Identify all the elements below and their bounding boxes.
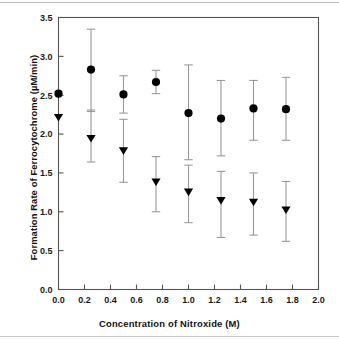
page-top-rule (0, 2, 339, 3)
svg-text:3.0: 3.0 (40, 52, 53, 62)
y-axis-tick-labels: 0.00.51.01.52.02.53.03.5 (40, 13, 53, 295)
svg-text:1.4: 1.4 (234, 295, 247, 305)
svg-text:1.0: 1.0 (40, 207, 53, 217)
y-axis-title: Formation Rate of Ferrocytochrome (µM/mi… (28, 33, 39, 283)
svg-text:3.5: 3.5 (40, 13, 53, 23)
error-bars (87, 29, 290, 241)
x-axis-title: Concentration of Nitroxide (M) (0, 318, 339, 329)
svg-text:2.0: 2.0 (40, 129, 53, 139)
svg-text:1.2: 1.2 (208, 295, 221, 305)
svg-text:0.0: 0.0 (40, 285, 53, 295)
figure-canvas: 0.00.20.40.60.81.01.21.41.61.82.0 0.00.5… (0, 0, 339, 340)
y-axis-ticks (59, 18, 64, 290)
x-axis-ticks (59, 285, 319, 290)
x-axis-tick-labels: 0.00.20.40.60.81.01.21.41.61.82.0 (52, 295, 325, 305)
svg-text:0.8: 0.8 (156, 295, 169, 305)
svg-text:2.0: 2.0 (312, 295, 325, 305)
svg-text:0.2: 0.2 (78, 295, 91, 305)
svg-text:0.4: 0.4 (104, 295, 117, 305)
svg-text:2.5: 2.5 (40, 91, 53, 101)
page-bottom-rule (0, 336, 339, 337)
scatter-plot: 0.00.20.40.60.81.01.21.41.61.82.0 0.00.5… (0, 0, 339, 340)
svg-text:1.8: 1.8 (286, 295, 299, 305)
svg-text:0.0: 0.0 (52, 295, 65, 305)
svg-text:0.5: 0.5 (40, 246, 53, 256)
svg-text:1.6: 1.6 (260, 295, 273, 305)
svg-text:1.0: 1.0 (182, 295, 195, 305)
svg-text:1.5: 1.5 (40, 168, 53, 178)
svg-text:0.6: 0.6 (130, 295, 143, 305)
